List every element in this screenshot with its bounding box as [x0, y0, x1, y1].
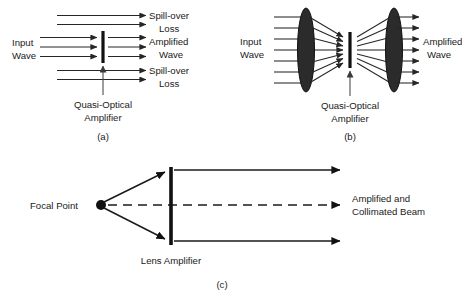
figure-container: Input Wave Spill-over Loss Amplified Wav…	[0, 0, 462, 294]
panel-c-lens-amplifier-label: Lens Amplifier	[141, 255, 202, 266]
panel-c-focal-point-label: Focal Point	[30, 200, 78, 211]
panel-a-spillover-top-label-line2: Loss	[159, 23, 179, 34]
quasi-optical-amplifier-figure: Input Wave Spill-over Loss Amplified Wav…	[0, 0, 462, 294]
left-lens-icon	[298, 8, 315, 92]
panel-b-input-wave-label-line2: Wave	[240, 49, 264, 60]
right-lens-icon	[386, 8, 403, 92]
panel-a-amplifier-label-line1: Quasi-Optical	[74, 99, 132, 110]
panel-a-amplified-label-line1: Amplified	[149, 36, 188, 47]
panel-a-spillover-bottom-label-line1: Spill-over	[149, 65, 190, 76]
panel-a-caption: (a)	[97, 131, 109, 142]
panel-b-amplified-label-line2: Wave	[427, 49, 451, 60]
panel-a-amplifier-label-line2: Amplifier	[84, 112, 122, 123]
panel-a-spillover-top-label-line1: Spill-over	[149, 10, 190, 21]
panel-c-output-label-line1: Amplified and	[352, 193, 410, 204]
panel-c-caption: (c)	[216, 279, 227, 290]
panel-b-amplifier-label-line2: Amplifier	[331, 113, 369, 124]
panel-a-input-wave-label-line1: Input	[12, 37, 34, 48]
panel-c-output-label-line2: Collimated Beam	[352, 206, 425, 217]
panel-b-amplifier-label-line1: Quasi-Optical	[321, 100, 379, 111]
panel-b-input-wave-label-line1: Input	[240, 36, 262, 47]
panel-b-caption: (b)	[344, 131, 356, 142]
panel-a-spillover-bottom-label-line2: Loss	[159, 78, 179, 89]
panel-a-amplified-label-line2: Wave	[159, 49, 183, 60]
panel-a-input-wave-label-line2: Wave	[12, 50, 36, 61]
panel-b-amplified-label-line1: Amplified	[423, 36, 462, 47]
